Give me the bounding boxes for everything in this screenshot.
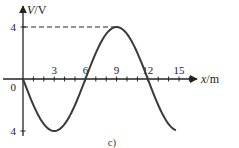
y-tick-label: 4 <box>11 125 17 137</box>
x-tick-label: 9 <box>114 64 120 76</box>
y-tick-label: 4 <box>11 21 17 33</box>
x-tick-label: 15 <box>174 64 186 76</box>
chart: 3691215440V/Vx/mc) <box>0 0 239 148</box>
origin-label: 0 <box>11 81 17 93</box>
figure-caption: c) <box>108 136 117 148</box>
y-axis-label: V/V <box>27 3 47 17</box>
x-axis-label: x/m <box>200 72 220 86</box>
x-tick-label: 3 <box>51 64 57 76</box>
